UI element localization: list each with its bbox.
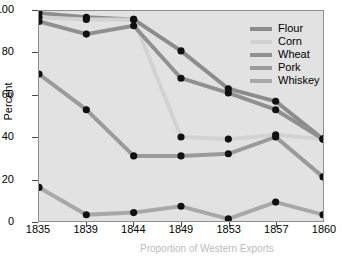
series-line-pork bbox=[39, 74, 323, 177]
legend-label: Pork bbox=[278, 62, 301, 73]
data-point bbox=[83, 16, 90, 23]
data-point bbox=[177, 152, 184, 159]
legend-label: Corn bbox=[278, 36, 302, 47]
legend-label: Wheat bbox=[278, 49, 310, 60]
data-point bbox=[272, 106, 279, 113]
data-point bbox=[177, 133, 184, 140]
data-point bbox=[83, 31, 90, 38]
x-tick-mark bbox=[86, 222, 87, 227]
chart-legend: FlourCornWheatPorkWhiskey bbox=[250, 22, 320, 87]
y-tick-label: 40 bbox=[2, 131, 14, 142]
legend-swatch-icon bbox=[250, 40, 272, 44]
x-tick-mark bbox=[133, 222, 134, 227]
y-tick-label: 80 bbox=[2, 46, 14, 57]
data-point bbox=[272, 199, 279, 206]
legend-item-corn: Corn bbox=[250, 35, 320, 48]
x-tick-label: 1860 bbox=[312, 224, 336, 235]
x-axis-title: Proportion of Western Exports bbox=[140, 243, 340, 254]
legend-swatch-icon bbox=[250, 79, 272, 83]
data-point bbox=[130, 209, 137, 216]
legend-label: Flour bbox=[278, 23, 303, 34]
data-point bbox=[130, 22, 137, 29]
data-point bbox=[272, 133, 279, 140]
x-tick-mark bbox=[229, 222, 230, 227]
x-tick-mark bbox=[181, 222, 182, 227]
legend-label: Whiskey bbox=[278, 75, 320, 86]
data-point bbox=[130, 152, 137, 159]
legend-item-whiskey: Whiskey bbox=[250, 74, 320, 87]
legend-item-flour: Flour bbox=[250, 22, 320, 35]
legend-item-pork: Pork bbox=[250, 61, 320, 74]
legend-swatch-icon bbox=[250, 53, 272, 57]
y-tick-label: 100 bbox=[0, 4, 14, 15]
data-point bbox=[83, 106, 90, 113]
data-point bbox=[272, 98, 279, 105]
data-point bbox=[225, 136, 232, 143]
y-tick-label: 20 bbox=[2, 174, 14, 185]
data-point bbox=[225, 89, 232, 96]
y-tick-label: 0 bbox=[8, 216, 14, 227]
data-point bbox=[177, 75, 184, 82]
x-tick-mark bbox=[276, 222, 277, 227]
data-point bbox=[177, 203, 184, 210]
y-axis-title: Percent bbox=[3, 72, 14, 132]
data-point bbox=[177, 47, 184, 54]
legend-swatch-icon bbox=[250, 27, 272, 31]
x-tick-label: 1835 bbox=[26, 224, 50, 235]
data-point bbox=[83, 211, 90, 218]
data-point bbox=[225, 150, 232, 157]
legend-swatch-icon bbox=[250, 66, 272, 70]
legend-item-wheat: Wheat bbox=[250, 48, 320, 61]
chart-figure: 020406080100 Percent 1835183918441849185… bbox=[0, 0, 342, 257]
data-point bbox=[130, 16, 137, 23]
